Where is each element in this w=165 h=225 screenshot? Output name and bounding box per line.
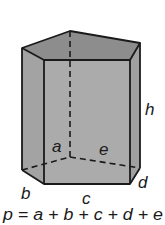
right-face <box>130 43 140 184</box>
label-a: a <box>52 137 61 156</box>
prism-diagram: h a e b c d p = a + b + c + d + e <box>0 0 165 225</box>
label-d: d <box>138 173 148 192</box>
label-b: b <box>21 184 30 203</box>
front-face <box>44 60 130 184</box>
top-face <box>22 31 140 60</box>
perimeter-formula: p = a + b + c + d + e <box>2 206 163 223</box>
label-h: h <box>145 100 154 119</box>
label-e: e <box>99 140 108 159</box>
left-face <box>22 48 44 184</box>
